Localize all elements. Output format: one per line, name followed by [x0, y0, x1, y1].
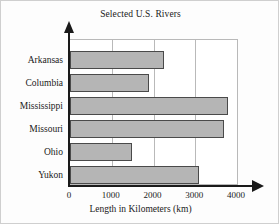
bar-arkansas[interactable]	[70, 51, 164, 69]
bar-missouri[interactable]	[70, 120, 224, 138]
plot-area	[69, 39, 238, 185]
bar-yukon[interactable]	[70, 166, 199, 184]
x-axis-arrow-icon	[252, 180, 264, 192]
bar-columbia[interactable]	[70, 74, 149, 92]
category-label-columbia: Columbia	[26, 78, 63, 88]
x-tick-label-0: 0	[67, 190, 72, 200]
y-axis-line	[68, 31, 70, 187]
category-label-mississippi: Mississippi	[20, 101, 63, 111]
bar-ohio[interactable]	[70, 143, 132, 161]
category-label-ohio: Ohio	[44, 147, 63, 157]
category-label-missouri: Missouri	[29, 124, 63, 134]
category-label-arkansas: Arkansas	[28, 55, 63, 65]
bar-chart: Selected U.S. Rivers Arkansas Columbia M…	[0, 0, 279, 224]
chart-title: Selected U.S. Rivers	[1, 9, 279, 19]
y-axis-arrow-icon	[64, 21, 74, 33]
x-axis-line	[68, 185, 254, 187]
x-tick-label-4000: 4000	[227, 190, 245, 200]
x-axis-title: Length in Kilometers (km)	[1, 204, 279, 214]
category-label-yukon: Yukon	[38, 170, 63, 180]
x-tick-label-3000: 3000	[185, 190, 203, 200]
x-tick-label-2000: 2000	[144, 190, 162, 200]
bar-mississippi[interactable]	[70, 97, 228, 115]
x-tick-label-1000: 1000	[102, 190, 120, 200]
